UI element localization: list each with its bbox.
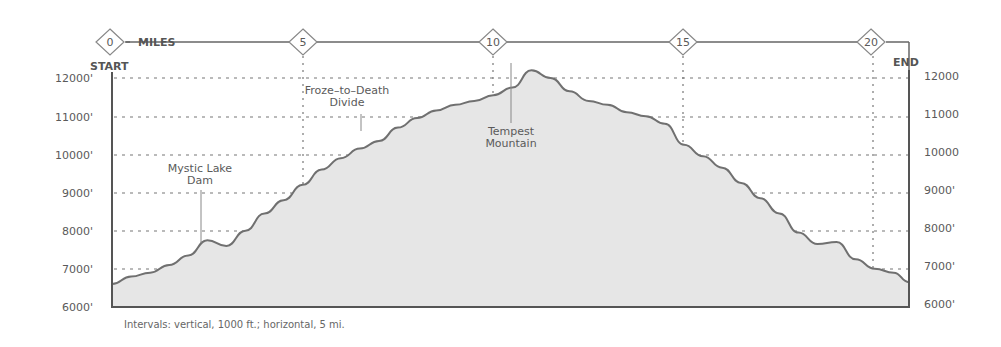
y-tick-left-10000: 10000' — [55, 149, 93, 162]
x-tick-10: 10 — [486, 36, 500, 49]
elevation-profile-chart: 0 5 10 15 20 MILES START END 6000' 7000'… — [0, 0, 1001, 347]
annotation-mystic-lake-2: Dam — [187, 174, 213, 187]
y-tick-right-12000: 12000 — [924, 70, 959, 83]
annotation-froze-to-death-2: Divide — [330, 96, 365, 109]
y-tick-left-9000: 9000' — [62, 187, 93, 200]
y-tick-right-6000: 6000' — [924, 298, 955, 311]
x-tick-5: 5 — [300, 36, 307, 49]
y-tick-right-8000: 8000' — [924, 222, 955, 235]
annotation-tempest-2: Mountain — [485, 137, 536, 150]
chart-caption: Intervals: vertical, 1000 ft.; horizonta… — [124, 319, 345, 330]
y-tick-left-11000: 11000' — [55, 111, 93, 124]
y-tick-right-9000: 9000' — [924, 184, 955, 197]
y-tick-left-8000: 8000' — [62, 225, 93, 238]
y-tick-left-6000: 6000' — [62, 301, 93, 314]
start-label: START — [90, 60, 129, 73]
y-tick-left-12000: 12000' — [55, 72, 93, 85]
y-tick-right-10000: 10000 — [924, 146, 959, 159]
y-tick-right-11000: 11000 — [924, 108, 959, 121]
y-tick-right-7000: 7000' — [924, 260, 955, 273]
x-tick-15: 15 — [676, 36, 690, 49]
x-tick-20: 20 — [864, 36, 878, 49]
end-label: END — [893, 56, 919, 69]
x-tick-0: 0 — [107, 36, 114, 49]
y-tick-left-7000: 7000' — [62, 263, 93, 276]
miles-label: MILES — [138, 36, 176, 49]
